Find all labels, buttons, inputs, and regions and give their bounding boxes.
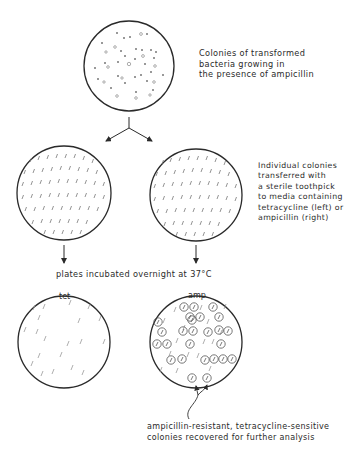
step2-label: Individual colonies transferred with a s…	[258, 161, 344, 223]
incubation-arrows	[64, 245, 196, 263]
colony-dots	[94, 32, 164, 99]
amp-plate-label: amp	[188, 291, 206, 300]
step1-label: Colonies of transformed bacteria growing…	[199, 48, 314, 80]
step3-label: plates incubated overnight at 37°C	[56, 269, 212, 280]
result-label: ampicillin-resistant, tetracycline-sensi…	[147, 422, 329, 443]
recovery-pointer	[188, 385, 207, 419]
middle-right-plate	[150, 149, 242, 241]
split-arrows	[106, 117, 152, 141]
tet-plate	[18, 296, 110, 388]
middle-left-plate	[17, 146, 111, 240]
tet-plate-label: tet	[59, 292, 70, 301]
initial-plate	[84, 21, 174, 111]
resistant-colonies	[153, 303, 236, 382]
amp-plate	[150, 296, 242, 388]
